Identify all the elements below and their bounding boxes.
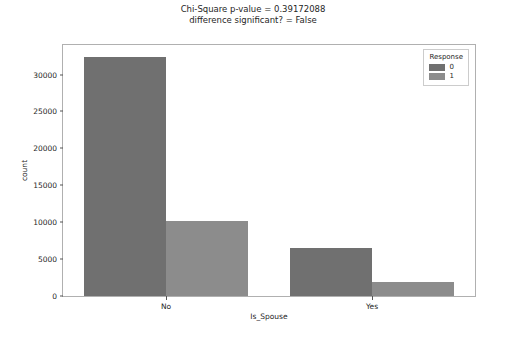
y-tick-mark bbox=[60, 296, 64, 297]
chart-title: Chi-Square p-value = 0.39172088 differen… bbox=[0, 4, 506, 26]
legend-title: Response bbox=[429, 53, 463, 61]
y-tick-mark bbox=[60, 259, 64, 260]
chart-figure: Chi-Square p-value = 0.39172088 differen… bbox=[0, 0, 506, 340]
bar bbox=[166, 221, 248, 296]
bar bbox=[372, 282, 454, 296]
y-tick-mark bbox=[60, 185, 64, 186]
x-tick-mark bbox=[166, 296, 167, 300]
bars-layer bbox=[63, 45, 475, 296]
chart-title-line-1: Chi-Square p-value = 0.39172088 bbox=[0, 4, 506, 15]
y-tick-mark bbox=[60, 148, 64, 149]
x-tick-mark bbox=[372, 296, 373, 300]
legend-item: 0 bbox=[429, 63, 463, 71]
bar bbox=[290, 248, 372, 296]
legend-swatch bbox=[429, 73, 445, 80]
y-tick-mark bbox=[60, 74, 64, 75]
bar bbox=[84, 57, 166, 296]
legend-rows: 01 bbox=[429, 63, 463, 80]
legend-label: 1 bbox=[449, 72, 453, 80]
y-tick-mark bbox=[60, 111, 64, 112]
chart-title-line-2: difference significant? = False bbox=[0, 15, 506, 26]
x-axis-label: Is_Spouse bbox=[62, 312, 476, 321]
legend-item: 1 bbox=[429, 72, 463, 80]
legend-swatch bbox=[429, 64, 445, 71]
y-tick-mark bbox=[60, 222, 64, 223]
plot-area: 050001000015000200002500030000 NoYes Res… bbox=[62, 44, 476, 297]
legend: Response 01 bbox=[423, 49, 469, 86]
legend-label: 0 bbox=[449, 63, 453, 71]
y-axis-label: count bbox=[18, 44, 32, 297]
